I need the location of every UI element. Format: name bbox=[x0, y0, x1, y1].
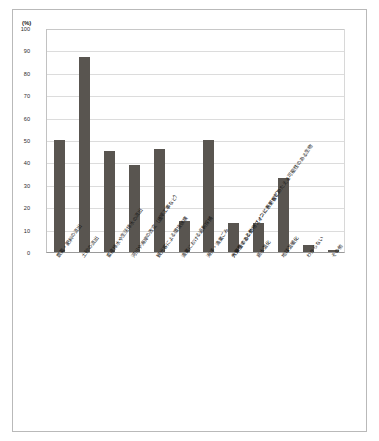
bar bbox=[104, 151, 115, 252]
y-tick-label-10: 10 bbox=[4, 228, 30, 234]
figure-page: (%) 0102030405060708090100 農薬・肥料の流出土砂の流出… bbox=[0, 0, 379, 441]
y-tick-label-0: 0 bbox=[4, 250, 30, 256]
y-tick-label-70: 70 bbox=[4, 93, 30, 99]
gridline-90 bbox=[47, 51, 344, 52]
plot-area bbox=[46, 29, 345, 253]
gridline-60 bbox=[47, 119, 344, 120]
gridline-20 bbox=[47, 208, 344, 209]
bar bbox=[54, 140, 65, 252]
y-tick-label-100: 100 bbox=[4, 26, 30, 32]
gridline-80 bbox=[47, 74, 344, 75]
bar bbox=[203, 140, 214, 252]
gridline-50 bbox=[47, 141, 344, 142]
y-axis-unit-label: (%) bbox=[22, 20, 31, 26]
gridline-70 bbox=[47, 96, 344, 97]
bar bbox=[154, 149, 165, 252]
gridline-100 bbox=[47, 29, 344, 30]
y-tick-label-60: 60 bbox=[4, 116, 30, 122]
y-tick-label-30: 30 bbox=[4, 183, 30, 189]
y-tick-label-40: 40 bbox=[4, 160, 30, 166]
y-tick-label-20: 20 bbox=[4, 205, 30, 211]
bar bbox=[79, 57, 90, 252]
y-tick-label-90: 90 bbox=[4, 48, 30, 54]
y-tick-label-80: 80 bbox=[4, 71, 30, 77]
y-tick-label-50: 50 bbox=[4, 138, 30, 144]
gridline-30 bbox=[47, 186, 344, 187]
bar-chart: (%) 0102030405060708090100 農薬・肥料の流出土砂の流出… bbox=[0, 0, 379, 441]
